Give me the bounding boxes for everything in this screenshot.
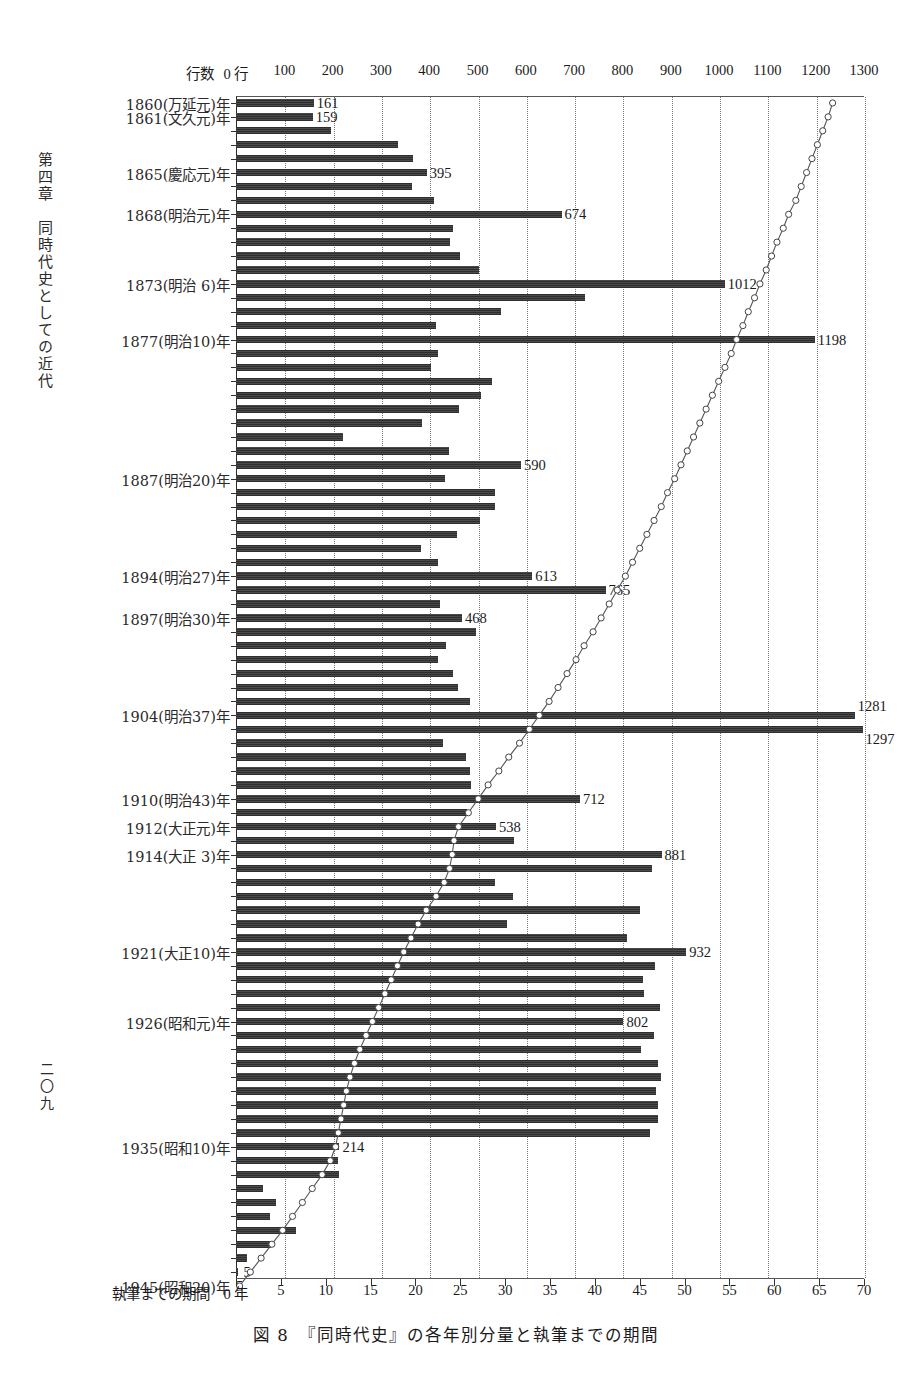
duration-marker xyxy=(269,1241,275,1247)
duration-marker xyxy=(768,253,774,259)
duration-marker xyxy=(423,907,429,913)
year-label: 1921(大正10)年 xyxy=(0,941,230,962)
duration-marker xyxy=(338,1116,344,1122)
duration-marker xyxy=(335,1130,341,1136)
duration-marker xyxy=(415,921,421,927)
duration-marker xyxy=(658,503,664,509)
duration-marker xyxy=(369,1018,375,1024)
duration-marker xyxy=(814,142,820,148)
year-label: 1935(昭和10)年 xyxy=(0,1136,230,1157)
duration-marker xyxy=(401,949,407,955)
duration-marker xyxy=(309,1185,315,1191)
duration-marker xyxy=(690,434,696,440)
duration-marker xyxy=(506,754,512,760)
duration-marker xyxy=(651,517,657,523)
duration-marker xyxy=(433,893,439,899)
top-axis-tick-600: 600 xyxy=(515,62,537,79)
duration-marker xyxy=(825,114,831,120)
top-axis-tick-1200: 1200 xyxy=(801,62,830,79)
top-axis-tick-300: 300 xyxy=(370,62,392,79)
duration-marker xyxy=(774,239,780,245)
top-axis-tick-800: 800 xyxy=(612,62,634,79)
top-axis: 0 行1002003004005006007008009001000110012… xyxy=(236,62,864,92)
top-axis-tick-700: 700 xyxy=(563,62,585,79)
duration-marker xyxy=(740,323,746,329)
bar-value-label: 1297 xyxy=(866,731,895,748)
duration-marker xyxy=(351,1060,357,1066)
top-axis-tick-200: 200 xyxy=(322,62,344,79)
top-axis-tick-1000: 1000 xyxy=(705,62,734,79)
duration-marker xyxy=(745,309,751,315)
year-label: 1897(明治30)年 xyxy=(0,607,230,628)
bottom-tick-mark-50 xyxy=(685,1279,686,1286)
duration-marker xyxy=(347,1074,353,1080)
duration-marker xyxy=(644,531,650,537)
duration-marker xyxy=(299,1199,305,1205)
duration-marker xyxy=(734,336,740,342)
duration-marker xyxy=(757,281,763,287)
year-label: 1887(明治20)年 xyxy=(0,468,230,489)
duration-marker xyxy=(451,837,457,843)
bottom-tick-mark-20 xyxy=(415,1279,416,1286)
duration-marker xyxy=(564,670,570,676)
duration-marker xyxy=(546,698,552,704)
duration-marker xyxy=(388,977,394,983)
bottom-tick-mark-0 xyxy=(236,1279,237,1286)
bottom-tick-mark-10 xyxy=(326,1279,327,1286)
duration-marker xyxy=(798,183,804,189)
duration-marker xyxy=(830,100,836,106)
gridline-1300 xyxy=(865,97,866,1278)
duration-marker xyxy=(581,643,587,649)
bottom-tick-mark-15 xyxy=(371,1279,372,1286)
duration-marker xyxy=(684,448,690,454)
bottom-tick-mark-30 xyxy=(505,1279,506,1286)
duration-marker xyxy=(606,601,612,607)
duration-marker xyxy=(793,197,799,203)
duration-marker xyxy=(247,1269,253,1275)
duration-marker xyxy=(516,740,522,746)
bottom-tick-mark-25 xyxy=(460,1279,461,1286)
duration-marker xyxy=(258,1255,264,1261)
year-label: 1868(明治元)年 xyxy=(0,204,230,225)
year-label: 1912(大正元)年 xyxy=(0,816,230,837)
year-label: 1904(明治37)年 xyxy=(0,705,230,726)
duration-marker xyxy=(536,712,542,718)
duration-marker xyxy=(664,490,670,496)
duration-marker xyxy=(751,295,757,301)
duration-marker xyxy=(786,211,792,217)
bottom-tick-mark-70 xyxy=(864,1279,865,1286)
duration-marker xyxy=(763,267,769,273)
duration-marker xyxy=(703,406,709,412)
duration-marker xyxy=(820,128,826,134)
year-label: 1926(昭和元)年 xyxy=(0,1011,230,1032)
duration-marker xyxy=(590,629,596,635)
duration-marker xyxy=(465,810,471,816)
duration-marker xyxy=(555,684,561,690)
duration-marker xyxy=(629,559,635,565)
top-axis-tick-500: 500 xyxy=(467,62,489,79)
bottom-tick-mark-5 xyxy=(281,1279,282,1286)
duration-marker xyxy=(341,1102,347,1108)
duration-line-series xyxy=(236,96,864,1279)
duration-marker xyxy=(598,615,604,621)
duration-marker xyxy=(678,462,684,468)
duration-marker xyxy=(446,865,452,871)
duration-marker xyxy=(803,169,809,175)
top-axis-tick-100: 100 xyxy=(273,62,295,79)
duration-marker xyxy=(343,1088,349,1094)
duration-marker xyxy=(382,991,388,997)
top-axis-tick-1300: 1300 xyxy=(850,62,879,79)
duration-marker xyxy=(327,1158,333,1164)
duration-marker xyxy=(394,963,400,969)
duration-line xyxy=(240,103,833,1286)
bottom-axis-title: 執筆までの期間 xyxy=(112,1282,210,1303)
duration-marker xyxy=(573,657,579,663)
figure-caption: 図 8 『同時代史』の各年別分量と執筆までの期間 xyxy=(0,1322,912,1346)
duration-marker xyxy=(449,851,455,857)
duration-marker xyxy=(780,225,786,231)
duration-marker xyxy=(455,824,461,830)
duration-marker xyxy=(716,378,722,384)
duration-marker xyxy=(280,1227,286,1233)
year-label: 1865(慶応元)年 xyxy=(0,162,230,183)
duration-marker xyxy=(319,1172,325,1178)
